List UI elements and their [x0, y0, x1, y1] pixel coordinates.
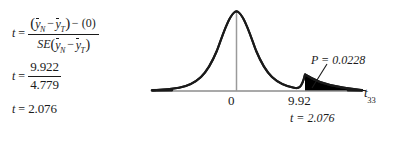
equation-symbolic: t = (yN−yT)−(0) SE(yN−yT)	[12, 14, 147, 53]
se-label: SE	[37, 37, 50, 51]
equation-symbolic-equals: =	[18, 26, 28, 41]
minus-operator: −	[66, 37, 76, 51]
x-tick-label-critical: 9.92	[288, 93, 311, 109]
close-paren: )	[65, 15, 70, 31]
plot-svg	[148, 0, 398, 141]
p-value-annotation: P = 0.0228	[311, 53, 365, 68]
x-axis-label-subscript: 33	[367, 95, 376, 105]
subscript-n: N	[40, 25, 45, 34]
equation-result-equals: =	[18, 102, 28, 117]
t-test-figure: t = (yN−yT)−(0) SE(yN−yT) t = 9.922 4.77…	[0, 0, 398, 141]
equation-numeric-fraction: 9.922 4.779	[28, 60, 61, 93]
subscript-n: N	[60, 46, 65, 55]
equation-numeric-equals: =	[18, 69, 28, 84]
equation-result: t = 2.076	[12, 101, 147, 117]
minus-operator-outer: −	[70, 16, 80, 30]
close-paren: )	[85, 37, 90, 52]
zero-term: (0)	[80, 16, 97, 30]
t-distribution-curve-overlay	[153, 11, 305, 90]
x-axis-label: t33	[364, 85, 376, 103]
equation-block: t = (yN−yT)−(0) SE(yN−yT) t = 9.922 4.77…	[12, 14, 147, 119]
t-distribution-curve	[153, 11, 362, 90]
equation-numeric-denominator: 4.779	[28, 77, 61, 93]
equation-symbolic-fraction: (yN−yT)−(0) SE(yN−yT)	[28, 14, 99, 53]
equation-result-value: 2.076	[28, 101, 57, 117]
t-statistic-annotation: t = 2.076	[290, 111, 334, 126]
minus-operator: −	[46, 16, 56, 30]
equation-numeric-numerator: 9.922	[28, 60, 61, 76]
equation-symbolic-numerator: (yN−yT)−(0)	[28, 14, 99, 34]
equation-numeric: t = 9.922 4.779	[12, 60, 147, 93]
equation-symbolic-denominator: SE(yN−yT)	[35, 35, 92, 54]
x-tick-label-zero: 0	[228, 93, 235, 109]
t-distribution-plot: 0 9.92 t = 2.076 P = 0.0228 t33	[148, 0, 398, 141]
